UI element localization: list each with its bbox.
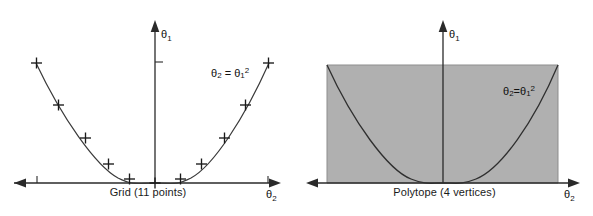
y-axis-arrow-icon (151, 20, 160, 32)
grid-point-marker (219, 133, 230, 144)
grid-point-marker (196, 159, 207, 170)
equation-rhs-exponent: 2 (531, 84, 535, 93)
panel-grid: θ1 θ2 θ2 = θ12 Grid (11 points) (0, 0, 296, 216)
panel-caption-grid: Grid (11 points) (0, 186, 296, 198)
grid-point-marker (53, 100, 64, 111)
equation-rhs-exponent: 2 (245, 66, 249, 75)
polytope-plot-svg (296, 0, 593, 216)
equation-equals: = (222, 67, 235, 79)
grid-point-marker (263, 58, 274, 69)
y-axis-label-subscript: 1 (167, 34, 171, 43)
panel-caption-polytope: Polytope (4 vertices) (296, 186, 593, 198)
y-axis-arrow-icon (439, 20, 448, 32)
curve-equation-label: θ2 = θ12 (211, 66, 249, 80)
curve-equation-label: θ2=θ12 (503, 84, 535, 98)
y-axis-label: θ1 (161, 28, 172, 43)
figure-container: θ1 θ2 θ2 = θ12 Grid (11 points) (0, 0, 593, 216)
grid-point-marker (31, 58, 42, 69)
grid-point-marker (240, 100, 251, 111)
parabola-curve (36, 63, 269, 184)
grid-plot-svg (0, 0, 296, 216)
y-axis-label: θ1 (449, 28, 460, 43)
y-axis-label-subscript: 1 (455, 34, 459, 43)
panel-polytope: θ1 θ2 θ2=θ12 Polytope (4 vertices) (296, 0, 593, 216)
